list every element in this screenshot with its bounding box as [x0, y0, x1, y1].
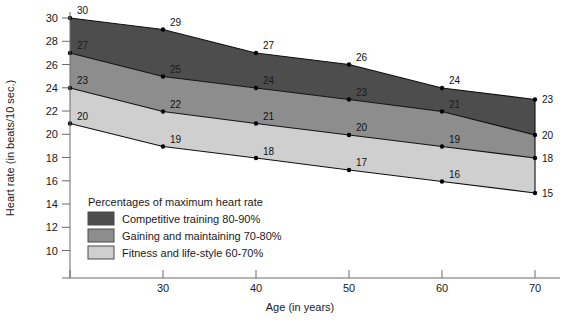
- x-axis-title: Age (in years): [266, 301, 334, 313]
- point-label-top-30: 29: [170, 17, 182, 28]
- point-label-third-70: 18: [542, 153, 554, 164]
- data-point: [161, 109, 165, 113]
- point-label-top-70: 23: [542, 94, 554, 105]
- point-label-third-50: 20: [356, 122, 368, 133]
- point-label-bottom-50: 17: [356, 157, 368, 168]
- point-label-top-20: 30: [77, 5, 89, 16]
- x-tick-label-60: 60: [436, 282, 448, 294]
- legend-swatch-fitness-lifestyle: [88, 246, 114, 259]
- point-label-second-50: 23: [356, 87, 368, 98]
- data-point: [161, 144, 165, 148]
- y-tick-label-30: 30: [46, 12, 58, 24]
- point-label-second-70: 20: [542, 130, 554, 141]
- data-point: [347, 62, 351, 66]
- x-tick-label-50: 50: [343, 282, 355, 294]
- x-axis: 30 40 50 60 70 Age (in years): [62, 270, 560, 313]
- data-point: [533, 191, 537, 195]
- y-tick-label-28: 28: [46, 35, 58, 47]
- point-label-bottom-70: 15: [542, 188, 554, 199]
- data-point: [254, 51, 258, 55]
- x-tick-label-70: 70: [529, 282, 541, 294]
- data-point: [254, 121, 258, 125]
- y-tick-label-22: 22: [46, 105, 58, 117]
- legend-swatch-gaining-maintaining: [88, 229, 114, 242]
- data-point: [533, 97, 537, 101]
- point-label-third-30: 22: [170, 99, 182, 110]
- data-point: [533, 133, 537, 137]
- y-axis: 30 28 26 24 22 20 18 16 14 12 10 Heart r…: [4, 12, 70, 278]
- y-tick-label-10: 10: [46, 245, 58, 257]
- data-point: [440, 144, 444, 148]
- area-chart: 30 29 27 26 24 23 27 25 24 23 21 20 23 2…: [0, 0, 565, 326]
- legend-label-fitness-lifestyle: Fitness and life-style 60-70%: [122, 247, 263, 259]
- chart-svg: 30 29 27 26 24 23 27 25 24 23 21 20 23 2…: [0, 0, 565, 326]
- data-point: [254, 156, 258, 160]
- point-label-third-20: 23: [77, 75, 89, 86]
- point-label-second-30: 25: [170, 64, 182, 75]
- legend-label-competitive-training: Competitive training 80-90%: [122, 213, 260, 225]
- y-tick-label-18: 18: [46, 152, 58, 164]
- x-tick-label-30: 30: [157, 282, 169, 294]
- point-label-third-40: 21: [263, 111, 275, 122]
- y-tick-label-26: 26: [46, 59, 58, 71]
- data-point: [440, 179, 444, 183]
- data-point: [440, 109, 444, 113]
- legend-title: Percentages of maximum heart rate: [88, 196, 263, 208]
- point-label-top-50: 26: [356, 52, 368, 63]
- point-label-second-20: 27: [77, 40, 89, 51]
- data-point: [440, 86, 444, 90]
- legend-label-gaining-maintaining: Gaining and maintaining 70-80%: [122, 230, 282, 242]
- y-tick-label-14: 14: [46, 198, 58, 210]
- point-label-bottom-60: 16: [449, 169, 461, 180]
- point-label-top-40: 27: [263, 40, 275, 51]
- data-point: [254, 86, 258, 90]
- y-tick-label-24: 24: [46, 82, 58, 94]
- point-label-third-60: 19: [449, 134, 461, 145]
- point-label-bottom-40: 18: [263, 146, 275, 157]
- data-point: [347, 168, 351, 172]
- point-label-bottom-20: 20: [77, 111, 89, 122]
- point-label-bottom-30: 19: [170, 134, 182, 145]
- legend-swatch-competitive-training: [88, 212, 114, 225]
- point-label-second-60: 21: [449, 99, 461, 110]
- legend: Percentages of maximum heart rate Compet…: [88, 196, 282, 259]
- data-point: [347, 97, 351, 101]
- y-axis-title: Heart rate (in beats/10 sec.): [4, 80, 16, 216]
- point-label-top-60: 24: [449, 75, 461, 86]
- y-tick-label-12: 12: [46, 221, 58, 233]
- y-tick-label-20: 20: [46, 128, 58, 140]
- data-point: [533, 156, 537, 160]
- data-point: [347, 133, 351, 137]
- data-point: [161, 27, 165, 31]
- point-label-second-40: 24: [263, 75, 275, 86]
- data-point: [161, 74, 165, 78]
- y-tick-label-16: 16: [46, 175, 58, 187]
- x-tick-label-40: 40: [250, 282, 262, 294]
